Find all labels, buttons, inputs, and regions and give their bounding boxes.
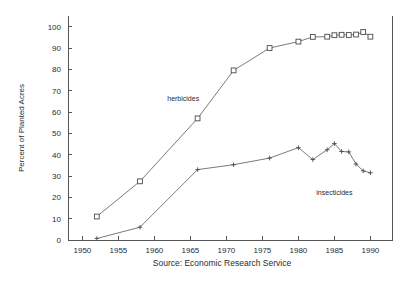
data-point-marker [361, 30, 366, 35]
y-tick-label: 30 [52, 172, 61, 181]
y-tick-label: 100 [48, 23, 62, 32]
series-label-herbicides: herbicides [167, 95, 199, 102]
data-point-marker [354, 32, 359, 37]
y-tick-label: 70 [52, 87, 61, 96]
y-axis-title: Percent of Planted Acres [17, 84, 26, 172]
x-tick-label: 1965 [182, 246, 200, 255]
data-point-marker [138, 179, 143, 184]
y-tick-label: 50 [52, 129, 61, 138]
data-point-marker [195, 116, 200, 121]
data-point-marker [325, 34, 330, 39]
data-point-marker [94, 214, 99, 219]
data-point-marker [296, 39, 301, 44]
x-tick-label: 1960 [146, 246, 164, 255]
data-point-marker [332, 33, 337, 38]
source-caption: Source: Economic Research Service [153, 258, 292, 268]
x-tick-label: 1990 [362, 246, 380, 255]
data-point-marker [346, 33, 351, 38]
x-tick-label: 1980 [290, 246, 308, 255]
data-point-marker [231, 68, 236, 73]
chart-background [0, 0, 415, 289]
y-tick-label: 80 [52, 65, 61, 74]
data-point-marker [267, 46, 272, 51]
x-tick-label: 1950 [74, 246, 92, 255]
data-point-marker [339, 32, 344, 37]
x-tick-label: 1955 [110, 246, 128, 255]
y-tick-label: 90 [52, 44, 61, 53]
chart-figure: 0102030405060708090100 19501955196019651… [0, 0, 415, 289]
x-tick-label: 1975 [254, 246, 272, 255]
y-tick-label: 20 [52, 193, 61, 202]
data-point-marker [310, 35, 315, 40]
series-label-insecticides: insecticides [316, 189, 353, 196]
line-chart-pesticide-usage: 0102030405060708090100 19501955196019651… [0, 0, 415, 289]
y-tick-label: 10 [52, 215, 61, 224]
y-tick-label: 40 [52, 151, 61, 160]
x-tick-label: 1970 [218, 246, 236, 255]
y-tick-label: 0 [57, 236, 62, 245]
data-point-marker [368, 34, 373, 39]
x-tick-label: 1985 [326, 246, 344, 255]
y-tick-label: 60 [52, 108, 61, 117]
